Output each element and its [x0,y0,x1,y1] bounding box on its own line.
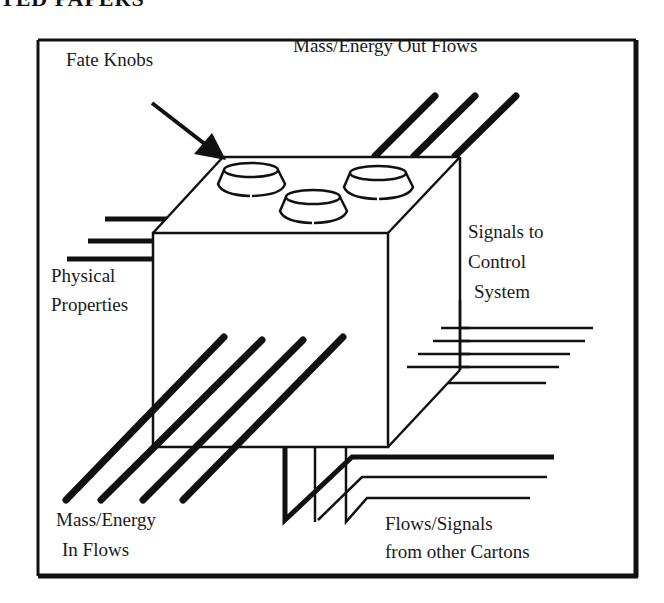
carton-diagram: Fate Knobs Mass/Energy Out Flows Signals… [0,0,664,603]
label-signals-line2: Control [468,251,526,272]
label-in-flows-line2: In Flows [62,539,129,560]
label-in-flows-line1: Mass/Energy [56,509,156,530]
label-fate-knobs: Fate Knobs [66,49,153,70]
out-flow-lines [375,96,516,156]
label-physical-line2: Properties [51,294,128,315]
label-other-line1: Flows/Signals [385,513,493,534]
label-signals-line3: System [474,281,530,302]
fate-knobs-arrow [152,103,226,160]
label-signals-line1: Signals to [468,221,543,242]
label-physical-line1: Physical [51,265,115,286]
label-other-line2: from other Cartons [385,541,530,562]
other-carton-lines [285,447,554,522]
label-out-flows: Mass/Energy Out Flows [293,35,477,56]
